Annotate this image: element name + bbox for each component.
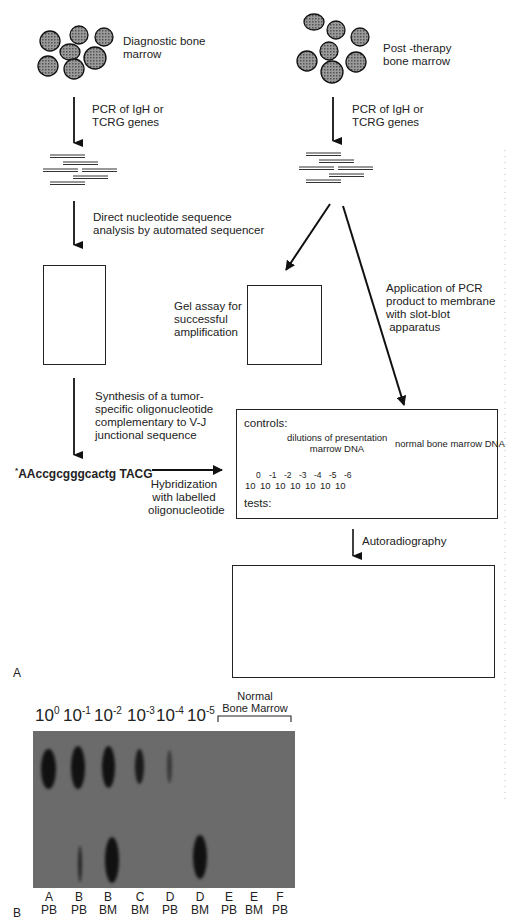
lane-label: DPB <box>158 891 182 917</box>
normal-bone-marrow-header: Normal Bone Marrow <box>218 690 292 714</box>
normal-marrow-dna-label: normal bone marrow DNA <box>395 437 505 450</box>
band-lane-b-bm-lower <box>105 837 119 883</box>
autoradiograph-gel-image <box>33 731 295 888</box>
normal-marrow-bracket <box>218 716 291 722</box>
lane-label: APB <box>37 891 61 917</box>
lane-label: CBM <box>128 891 152 917</box>
band-lane-c-bm-upper <box>135 749 144 784</box>
gel-assay-label: Gel assay for successful amplification <box>174 300 242 339</box>
panel-a-label: A <box>13 667 21 680</box>
oligo-synthesis-label: Synthesis of a tumor- specific oligonucl… <box>95 390 213 442</box>
dilution-header: 10-2 <box>94 705 122 726</box>
band-lane-a-pb-upper <box>41 749 56 789</box>
right-pcr-label: PCR of IgH or TCRG genes <box>352 103 424 129</box>
lane-label: DBM <box>188 891 212 917</box>
dilution-header: 10-1 <box>63 705 91 726</box>
post-therapy-cells-icon <box>297 14 369 83</box>
autoradiography-label: Autoradiography <box>362 535 446 548</box>
gel-assay-box <box>247 285 322 365</box>
lane-label: BBM <box>96 891 120 917</box>
dilutions-label: dilutions of presentation marrow DNA <box>287 432 387 454</box>
tests-label: tests: <box>244 497 271 510</box>
band-lane-b-bm-upper <box>102 746 115 788</box>
hybridization-label: Hybridization with labelled oligonucleot… <box>148 478 220 517</box>
slot-blot-application-label: Application of PCR product to membrane w… <box>386 282 495 334</box>
post-therapy-marrow-label: Post -therapy bone marrow <box>383 42 451 68</box>
diagnostic-marrow-label: Diagnostic bone marrow <box>123 35 205 61</box>
lane-label: FPB <box>268 891 292 917</box>
oligo-sequence: *AAccgcgggcactg TACG <box>15 464 153 481</box>
sequencing-gel-box <box>43 265 106 365</box>
controls-label: controls: <box>244 417 287 430</box>
band-lane-b-pb-lower <box>78 846 82 882</box>
dilution-header: 10-4 <box>156 705 184 726</box>
arrow-diagonal-icon <box>286 204 330 270</box>
lane-label: EPB <box>217 891 241 917</box>
band-lane-b-pb-upper <box>71 746 85 789</box>
slot-blot-membrane: controls: dilutions of presentation marr… <box>236 409 498 519</box>
dilution-header: 10-5 <box>187 705 215 726</box>
lane-label: EBM <box>242 891 266 917</box>
dilution-header: 100 <box>35 705 59 726</box>
lane-label: BPB <box>67 891 91 917</box>
panel-b-label: B <box>13 907 21 920</box>
pcr-product-right-icon <box>299 153 373 183</box>
left-pcr-label: PCR of IgH or TCRG genes <box>92 103 164 129</box>
band-lane-d-bm-lower <box>193 835 207 879</box>
diagnostic-cells-icon <box>38 26 113 79</box>
pcr-product-left-icon <box>43 155 117 185</box>
band-lane-d-pb-upper <box>167 750 172 783</box>
dilution-header: 10-3 <box>127 705 155 726</box>
sequence-analysis-label: Direct nucleotide sequence analysis by a… <box>93 211 264 237</box>
autoradiograph-box <box>232 565 495 678</box>
